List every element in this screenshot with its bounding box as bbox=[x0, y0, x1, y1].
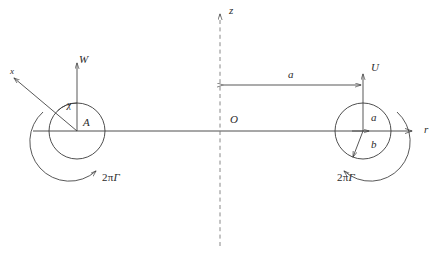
axis-label-r: r bbox=[424, 124, 428, 135]
left-circulation-symbol: Γ bbox=[113, 171, 119, 183]
left-vortex-group bbox=[14, 63, 105, 181]
right-circulation-symbol: Γ bbox=[348, 171, 354, 183]
left-oblique-axis-label-x: x bbox=[10, 67, 14, 76]
left-circulation-label: 2πΓ bbox=[102, 172, 120, 183]
right-circulation-prefix: 2π bbox=[337, 171, 348, 183]
origin-label-O: O bbox=[230, 114, 238, 125]
diagram-canvas bbox=[0, 0, 439, 258]
right-core-radius-b bbox=[353, 131, 363, 157]
right-circulation-label: 2πΓ bbox=[337, 172, 355, 183]
left-velocity-label-W: W bbox=[79, 54, 88, 65]
right-vortex-group bbox=[335, 74, 410, 181]
left-point-label-A: A bbox=[83, 117, 90, 128]
right-outer-radius-label-a: a bbox=[371, 112, 377, 123]
left-angle-label-chi: χ bbox=[67, 100, 71, 110]
distance-label-a: a bbox=[288, 69, 294, 80]
right-velocity-label-U: U bbox=[371, 62, 379, 73]
right-core-radius-label-b: b bbox=[371, 139, 377, 150]
axis-label-z: z bbox=[229, 5, 233, 16]
left-circulation-prefix: 2π bbox=[102, 171, 113, 183]
vortex-ring-diagram: z r O a W χ A x 2πΓ U a b 2πΓ bbox=[0, 0, 439, 258]
